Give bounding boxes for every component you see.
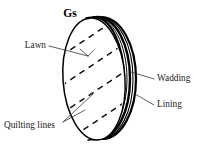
label-wadding: Wadding — [157, 73, 191, 83]
figure-container: Gs Lawn Wadding Lining Quilting lines — [0, 0, 212, 145]
quilted-disc-diagram: Gs Lawn Wadding Lining Quilting lines — [0, 0, 212, 145]
figure-title-gs: Gs — [63, 7, 77, 19]
label-lawn: Lawn — [25, 40, 47, 50]
label-lining: Lining — [157, 99, 182, 109]
label-quilting-lines: Quilting lines — [4, 120, 55, 130]
